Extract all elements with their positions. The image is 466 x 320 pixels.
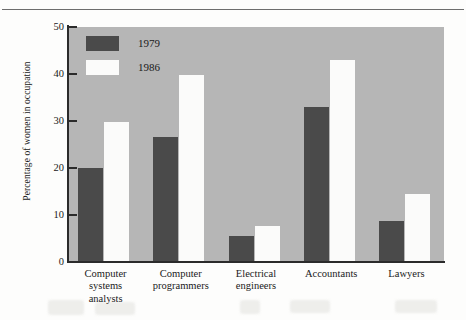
bar-chart-figure: Percentage of women in occupation 50 40 …: [0, 0, 466, 320]
bar-1979-electrical-engineers: [229, 236, 254, 262]
y-tick-50: [68, 26, 77, 28]
y-tick-40: [68, 73, 77, 75]
legend-label-1986: 1986: [138, 59, 160, 75]
x-category-label-computer-programmers: Computerprogrammers: [143, 268, 218, 293]
x-category-label-computer-systems-analysts: Computersystemsanalysts: [68, 268, 143, 305]
x-category-label-line: Computer: [68, 268, 143, 280]
x-category-label-lawyers: Lawyers: [369, 268, 444, 280]
x-category-label-line: Lawyers: [369, 268, 444, 280]
bar-1986-lawyers: [405, 194, 430, 262]
x-category-label-line: programmers: [143, 280, 218, 292]
y-tick-label-30: 30: [40, 116, 64, 126]
y-tick-label-40: 40: [40, 69, 64, 79]
legend-label-1979: 1979: [138, 35, 160, 51]
legend-swatch-1979: [86, 36, 119, 51]
y-tick-label-50: 50: [40, 22, 64, 32]
y-tick-label-0: 0: [40, 257, 64, 267]
x-axis-line: [67, 261, 445, 263]
x-category-label-accountants: Accountants: [294, 268, 369, 280]
x-category-label-line: Computer: [143, 268, 218, 280]
x-category-label-line: Accountants: [294, 268, 369, 280]
x-category-label-line: systems: [68, 280, 143, 292]
bar-1986-computer-systems-analysts: [104, 122, 129, 262]
bar-1986-computer-programmers: [179, 75, 204, 262]
bar-1979-accountants: [304, 107, 329, 262]
x-category-label-line: engineers: [218, 280, 293, 292]
plot-area: 1979 1986: [68, 27, 444, 262]
bar-1979-computer-systems-analysts: [78, 168, 103, 262]
y-tick-label-10: 10: [40, 210, 64, 220]
y-axis-line: [67, 25, 69, 263]
bar-1986-accountants: [330, 60, 355, 262]
y-axis-label: Percentage of women in occupation: [22, 31, 32, 231]
y-tick-20: [68, 167, 77, 169]
bar-1979-computer-programmers: [153, 137, 178, 262]
bar-1986-electrical-engineers: [255, 226, 280, 262]
legend-swatch-1986: [86, 60, 119, 75]
x-category-label-line: Electrical: [218, 268, 293, 280]
y-tick-30: [68, 120, 77, 122]
bar-1979-lawyers: [379, 221, 404, 262]
x-category-label-line: analysts: [68, 293, 143, 305]
y-tick-label-20: 20: [40, 163, 64, 173]
x-category-label-electrical-engineers: Electricalengineers: [218, 268, 293, 293]
y-tick-10: [68, 214, 77, 216]
